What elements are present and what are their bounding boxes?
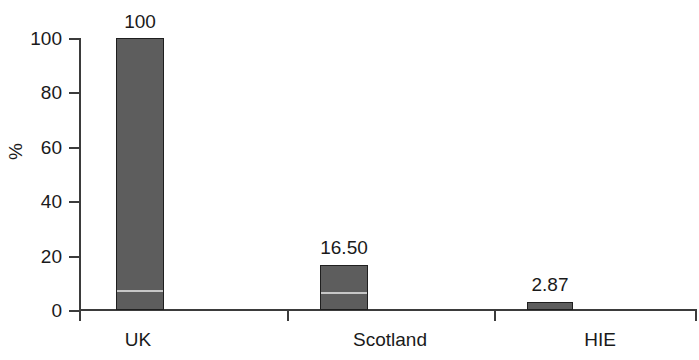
x-tick-start	[79, 311, 81, 321]
y-axis-line	[79, 38, 81, 311]
x-axis-line	[79, 309, 697, 311]
y-tick-0	[69, 310, 79, 312]
bar-value-hie: 2.87	[505, 275, 595, 294]
y-tick-80	[69, 92, 79, 94]
y-tick-40	[69, 201, 79, 203]
bar-scotland-inner-line	[321, 292, 367, 294]
x-axis-label-hie: HIE	[555, 330, 645, 349]
bar-value-scotland: 16.50	[299, 238, 389, 257]
bar-uk-inner-line	[117, 290, 163, 292]
x-tick-scotland-hie	[494, 311, 496, 321]
y-tick-100	[69, 38, 79, 40]
y-tick-label-80: 80	[2, 83, 62, 102]
bar-uk	[116, 38, 164, 310]
y-tick-label-100: 100	[2, 29, 62, 48]
x-axis-label-scotland: Scotland	[330, 330, 450, 349]
y-tick-label-0: 0	[2, 301, 62, 320]
y-tick-label-20: 20	[2, 247, 62, 266]
bar-chart: % 100 80 60 40 20 0 100 16.50 2.87 UK Sc…	[0, 0, 699, 360]
y-tick-60	[69, 147, 79, 149]
bar-scotland	[320, 265, 368, 310]
bar-value-uk: 100	[95, 12, 185, 31]
y-tick-label-40: 40	[2, 192, 62, 211]
x-tick-end	[695, 311, 697, 321]
bar-hie	[527, 302, 573, 310]
x-axis-label-uk: UK	[93, 330, 183, 349]
x-tick-uk-scotland	[287, 311, 289, 321]
y-tick-20	[69, 256, 79, 258]
y-tick-label-60: 60	[2, 138, 62, 157]
